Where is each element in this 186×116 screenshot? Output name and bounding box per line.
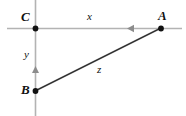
point-a-marker [158, 26, 164, 32]
hypotenuse-line-z [35, 28, 161, 91]
side-label-x: x [87, 11, 92, 22]
side-label-y: y [24, 49, 29, 60]
point-c-marker [33, 26, 39, 32]
point-b-marker [33, 88, 39, 94]
geometry-figure: C A B x y z [0, 0, 186, 116]
left-arrowhead-icon [127, 25, 134, 32]
vertex-label-a: A [158, 9, 167, 22]
vertex-label-c: C [21, 10, 30, 23]
up-arrowhead-icon [32, 66, 39, 73]
vertex-label-b: B [21, 83, 30, 96]
side-label-z: z [97, 64, 101, 75]
